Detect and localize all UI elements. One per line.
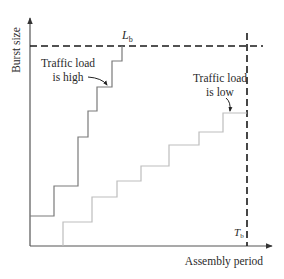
x-axis-label: Assembly period: [185, 255, 264, 268]
low-load-arrow-icon: [226, 98, 230, 111]
time-threshold-label: Tb: [234, 226, 244, 240]
y-axis-label: Burst size: [10, 27, 22, 73]
high-load-label-line1: Traffic load: [41, 57, 95, 69]
high-load-arrow-icon: [88, 77, 107, 85]
low-load-staircase: [63, 113, 247, 246]
burst-assembly-diagram: Lb Tb Traffic load is high Traffic load …: [0, 0, 284, 279]
low-load-label-line1: Traffic load: [193, 72, 247, 84]
high-load-label-line2: is high: [53, 71, 84, 84]
low-load-label-line2: is low: [206, 86, 234, 98]
length-threshold-label: Lb: [121, 28, 133, 44]
